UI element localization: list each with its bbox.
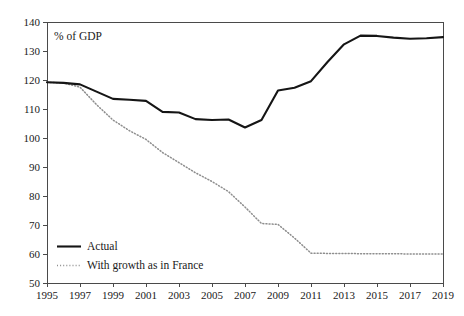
y-tick-label: 100 <box>24 132 41 144</box>
y-tick-label: 80 <box>29 190 41 202</box>
x-tick-label: 2011 <box>300 289 322 301</box>
x-tick-label: 2007 <box>234 289 257 301</box>
x-tick-label: 1999 <box>102 289 125 301</box>
x-tick-label: 2017 <box>399 289 422 301</box>
x-tick-label: 2005 <box>201 289 224 301</box>
chart-figure: 5060708090100110120130140 19951997199920… <box>0 0 464 316</box>
x-axis-ticks: 1995199719992001200320052007200920112013… <box>36 283 455 301</box>
y-tick-label: 140 <box>24 16 41 28</box>
y-axis-unit-note: % of GDP <box>54 30 102 42</box>
legend-label: With growth as in France <box>87 259 203 272</box>
y-tick-label: 90 <box>29 161 41 173</box>
y-tick-label: 70 <box>29 219 41 231</box>
series-line-with-growth-as-in-france <box>47 82 443 254</box>
x-tick-label: 2003 <box>168 289 191 301</box>
y-tick-label: 60 <box>29 248 41 260</box>
chart-legend: ActualWith growth as in France <box>57 240 203 272</box>
x-tick-label: 2009 <box>267 289 290 301</box>
debt-to-gdp-line-chart: 5060708090100110120130140 19951997199920… <box>0 0 464 316</box>
x-tick-label: 2019 <box>432 289 455 301</box>
x-tick-label: 2001 <box>135 289 157 301</box>
y-axis-ticks: 5060708090100110120130140 <box>24 16 48 289</box>
y-tick-label: 120 <box>24 74 41 86</box>
x-tick-label: 2013 <box>333 289 356 301</box>
x-tick-label: 1995 <box>36 289 59 301</box>
y-tick-label: 130 <box>24 45 41 57</box>
x-tick-label: 1997 <box>69 289 92 301</box>
y-tick-label: 110 <box>24 103 41 115</box>
x-tick-label: 2015 <box>366 289 389 301</box>
y-tick-label: 50 <box>29 277 41 289</box>
legend-label: Actual <box>87 240 118 252</box>
